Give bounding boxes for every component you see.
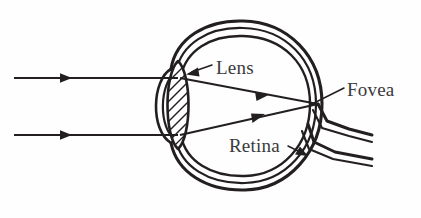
optic-nerve xyxy=(302,104,372,166)
sclera-outline xyxy=(171,21,322,190)
fovea-point xyxy=(316,102,319,105)
lens-leader-arrow xyxy=(186,65,212,77)
label-retina: Retina xyxy=(229,136,280,155)
fovea-leader-line xyxy=(312,88,344,104)
optic-nerve-upper-outer xyxy=(318,104,372,135)
label-lens: Lens xyxy=(216,58,254,77)
ray-arrow-top xyxy=(60,73,72,83)
refracted-ray-top xyxy=(180,78,318,104)
incoming-light-ray-top xyxy=(14,73,178,83)
refracted-ray-bottom xyxy=(180,104,318,135)
choroid-outline xyxy=(176,28,316,183)
refracted-arrow-bottom xyxy=(251,114,265,124)
lens-arrow-head xyxy=(186,68,200,77)
label-fovea: Fovea xyxy=(347,80,394,99)
ray-arrow-bottom xyxy=(60,130,72,140)
incoming-light-ray-bottom xyxy=(14,130,178,140)
eyeball-wall xyxy=(171,21,322,190)
eye-diagram: Lens Fovea Retina xyxy=(0,0,421,218)
eye-diagram-svg xyxy=(0,0,421,218)
